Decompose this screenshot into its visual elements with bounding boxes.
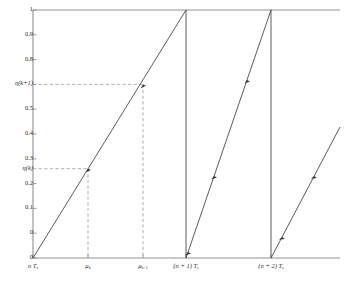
x-tick-label-nts: n Ts (13, 263, 53, 270)
x-tick-label-n-plus-2-ts-text: (n + 2) T (258, 262, 282, 269)
y-tick-label-eta-k-plus-1: η(k+1) (0, 80, 33, 87)
y-tick-label-eta-k: η(k) (0, 165, 33, 172)
y-tick-label-0-4: 0.3 (3, 155, 33, 162)
chart-canvas (0, 0, 348, 281)
x-tick-label-mu-k-sub: k (89, 265, 91, 270)
axis-frame (33, 10, 340, 258)
y-tick-label-0-8: 0.8 (3, 56, 33, 63)
ramp-arrow-marker (185, 80, 250, 255)
y-tick-label-0-2: 0.1 (3, 204, 33, 211)
y-tick-label-1: 1 (3, 6, 33, 13)
y-tick-label-0-5: 0.4 (3, 130, 33, 137)
x-tick-label-n-plus-2-ts: (n + 2) Ts (244, 263, 298, 270)
y-tick-label-0-3: 0.2 (3, 180, 33, 187)
y-axis-ticks (33, 10, 37, 258)
x-tick-label-mu-k: μk (68, 263, 108, 270)
y-tick-label-0-6: 0.5 (3, 105, 33, 112)
y-tick-label-0: 0 (3, 254, 33, 261)
chart-figure: 1 0.9 0.8 η(k+1) 0.5 0.4 0.3 η(k) 0.2 0.… (0, 0, 348, 281)
x-tick-label-n-plus-1-ts-sub: s (197, 265, 199, 270)
sawtooth-ramp-3 (271, 127, 340, 258)
x-axis-ticks (33, 255, 271, 259)
x-tick-label-n-plus-1-ts-text: (n + 1) T (173, 262, 197, 269)
x-tick-label-nts-sub: s (36, 265, 38, 270)
x-tick-label-n-plus-1-ts: (n + 1) Ts (159, 263, 213, 270)
x-tick-label-mu-k-plus-1: μk+1 (123, 263, 163, 270)
y-tick-label-0-9: 0.9 (3, 31, 33, 38)
x-tick-label-mu-k-plus-1-sub: k+1 (141, 265, 147, 270)
sawtooth-ramp-1 (33, 10, 186, 258)
ramp-arrow-marker (279, 176, 317, 240)
x-tick-label-n-plus-2-ts-sub: s (282, 265, 284, 270)
sawtooth-ramp-2 (185, 10, 271, 258)
y-tick-label-0-1: 0 (3, 229, 33, 236)
ramp-arrow-marker (86, 84, 146, 172)
